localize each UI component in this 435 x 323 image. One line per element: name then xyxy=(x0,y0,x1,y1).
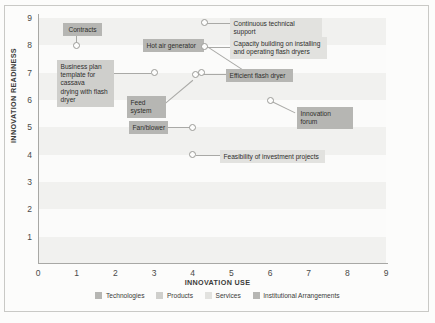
x-axis-line xyxy=(38,263,388,264)
innovation-matrix-figure: 9 8 7 6 5 4 3 2 1 0 1 2 3 4 5 6 7 8 9 xyxy=(0,0,435,323)
data-point-contracts[interactable] xyxy=(73,42,80,49)
legend-label-services: Services xyxy=(215,292,240,299)
callout-hot-air-generator[interactable]: Hot air generator xyxy=(143,39,204,52)
legend-label-products: Products xyxy=(167,292,193,299)
x-tick-3: 3 xyxy=(152,268,157,278)
legend-item-technologies[interactable]: Technologies xyxy=(95,292,144,299)
leader-line-fan-blower xyxy=(168,127,190,128)
data-point-business-plan[interactable] xyxy=(151,69,158,76)
y-tick-8: 8 xyxy=(27,40,32,50)
y-tick-9: 9 xyxy=(27,13,32,23)
leader-line-continuous-support xyxy=(206,23,230,24)
x-tick-0: 0 xyxy=(36,268,41,278)
y-tick-4: 4 xyxy=(27,150,32,160)
y-tick-6: 6 xyxy=(27,95,32,105)
x-tick-6: 6 xyxy=(268,268,273,278)
data-point-capacity-building[interactable] xyxy=(201,43,208,50)
x-tick-4: 4 xyxy=(190,268,195,278)
y-tick-7: 7 xyxy=(27,68,32,78)
y-tick-3: 3 xyxy=(27,177,32,187)
data-point-innovation-forum[interactable] xyxy=(267,97,274,104)
legend-item-institutional-arrangements[interactable]: Institutional Arrangements xyxy=(253,292,340,299)
legend-item-products[interactable]: Products xyxy=(156,292,193,299)
leader-line-capacity-building xyxy=(206,47,230,48)
leader-line-feasibility xyxy=(196,155,220,156)
legend-swatch-services xyxy=(205,292,212,299)
callout-feasibility[interactable]: Feasibility of investment projects xyxy=(220,150,325,163)
legend-label-technologies: Technologies xyxy=(106,292,145,299)
data-point-continuous-support[interactable] xyxy=(201,19,208,26)
legend-item-services[interactable]: Services xyxy=(205,292,241,299)
x-axis-title: INNOVATION USE xyxy=(0,278,435,287)
plot-band xyxy=(38,237,386,264)
legend-swatch-technologies xyxy=(95,292,102,299)
callout-feed-system[interactable]: Feed system xyxy=(127,96,166,118)
plot-band xyxy=(38,182,386,209)
callout-business-plan[interactable]: Business plan template for cassava dryin… xyxy=(57,60,114,107)
leader-line-business-plan xyxy=(113,73,151,74)
y-tick-1: 1 xyxy=(27,232,32,242)
plot-area: 9 8 7 6 5 4 3 2 1 0 1 2 3 4 5 6 7 8 9 xyxy=(38,18,386,264)
x-tick-7: 7 xyxy=(306,268,311,278)
data-point-efficient-flash-dryer[interactable] xyxy=(192,71,199,78)
y-axis-title: INNOVATION READINESS xyxy=(9,48,18,143)
x-tick-8: 8 xyxy=(345,268,350,278)
plot-band xyxy=(38,127,386,155)
legend-swatch-products xyxy=(156,292,163,299)
y-axis-line xyxy=(38,14,39,264)
callout-capacity-building[interactable]: Capacity building on installing and oper… xyxy=(230,37,327,59)
data-point-feed-system[interactable] xyxy=(198,69,205,76)
callout-innovation-forum[interactable]: Innovation forum xyxy=(297,107,353,129)
x-tick-2: 2 xyxy=(113,268,118,278)
x-tick-5: 5 xyxy=(229,268,234,278)
callout-contracts[interactable]: Contracts xyxy=(63,23,102,36)
callout-efficient-flash-dryer[interactable]: Efficient flash dryer xyxy=(226,69,293,82)
data-point-fan-blower[interactable] xyxy=(189,124,196,131)
legend-label-institutional-arrangements: Institutional Arrangements xyxy=(263,292,339,299)
legend-swatch-institutional-arrangements xyxy=(253,292,260,299)
x-tick-1: 1 xyxy=(74,268,79,278)
y-tick-5: 5 xyxy=(27,122,32,132)
callout-fan-blower[interactable]: Fan/blower xyxy=(129,121,168,134)
x-tick-9: 9 xyxy=(384,268,389,278)
legend: Technologies Products Services Instituti… xyxy=(0,292,435,299)
y-tick-2: 2 xyxy=(27,204,32,214)
